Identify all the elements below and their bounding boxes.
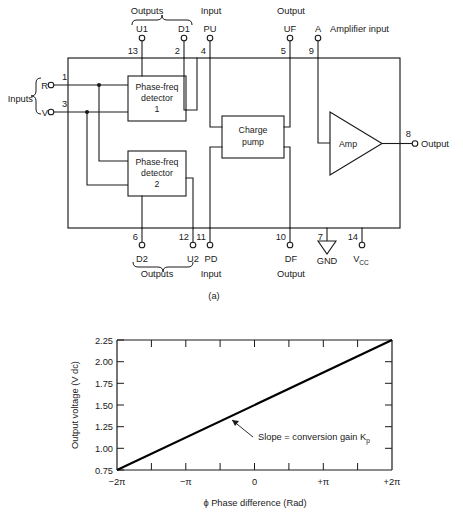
charge-pump-line1: Charge bbox=[239, 125, 268, 135]
ytick-label-0: 0.75 bbox=[95, 466, 113, 476]
text-layer: Outputs U1 D1 PU UF A Input Output Ampli… bbox=[8, 6, 450, 508]
pin-role-pu: Input bbox=[201, 6, 222, 16]
terminal-d2[interactable] bbox=[139, 242, 145, 248]
pin-number-1: 1 bbox=[62, 72, 67, 82]
pin-name-a: A bbox=[315, 24, 322, 34]
chart-x-ticks bbox=[151, 463, 357, 470]
chart-annotation-leader bbox=[232, 420, 253, 437]
chart-x-ticks-top bbox=[151, 340, 357, 347]
pin-name-pu: PU bbox=[204, 24, 217, 34]
chart-slope-annotation: Slope = conversion gain Kp bbox=[258, 432, 370, 445]
pfd1-line2: detector bbox=[141, 93, 173, 103]
pfd1-line1: Phase-freq bbox=[135, 82, 178, 92]
pin-name-u1: U1 bbox=[136, 24, 148, 34]
top-outputs-label: Outputs bbox=[131, 6, 164, 16]
bottom-outputs-label: Outputs bbox=[141, 269, 174, 279]
pin-number-2: 2 bbox=[175, 46, 180, 56]
terminal-u1[interactable] bbox=[139, 35, 145, 41]
terminal-vcc[interactable] bbox=[359, 242, 365, 248]
pin-name-u2: U2 bbox=[187, 254, 199, 264]
ground-symbol-icon bbox=[318, 241, 336, 254]
pin-number-13: 13 bbox=[128, 46, 138, 56]
pin-name-df: DF bbox=[285, 254, 298, 264]
ytick-label-1: 1.00 bbox=[95, 444, 113, 454]
chart-data-line bbox=[117, 340, 392, 470]
pin-name-d1: D1 bbox=[178, 24, 190, 34]
pin-number-9: 9 bbox=[309, 46, 314, 56]
pin-number-10: 10 bbox=[276, 232, 286, 242]
ytick-label-2: 1.25 bbox=[95, 422, 113, 432]
input-name-r: R bbox=[41, 81, 48, 91]
pin-role-pd: Input bbox=[201, 269, 222, 279]
amp-label: Amp bbox=[339, 139, 357, 149]
pin-name-pd: PD bbox=[205, 254, 218, 264]
xtick-label-8: +2π bbox=[383, 477, 400, 487]
ytick-label-4: 1.75 bbox=[95, 379, 113, 389]
chart-y-axis-title: Output voltage (V dc) bbox=[70, 361, 80, 449]
chart-panel bbox=[117, 340, 392, 470]
pfd2-line2: detector bbox=[141, 168, 173, 178]
amplifier-input-label: Amplifier input bbox=[330, 24, 389, 34]
charge-pump-line2: pump bbox=[242, 137, 264, 147]
xtick-label-6: +π bbox=[317, 477, 329, 487]
pin-name-d2: D2 bbox=[136, 254, 148, 264]
terminal-d1[interactable] bbox=[181, 35, 187, 41]
pin-number-8: 8 bbox=[406, 129, 411, 139]
output-label: Output bbox=[421, 139, 449, 149]
terminal-r[interactable] bbox=[48, 82, 54, 88]
terminal-pu[interactable] bbox=[207, 35, 213, 41]
pin-number-4: 4 bbox=[201, 46, 206, 56]
pin-name-gnd: GND bbox=[317, 256, 338, 266]
ytick-label-3: 1.50 bbox=[95, 401, 113, 411]
terminal-pd[interactable] bbox=[207, 242, 213, 248]
ytick-label-5: 2.00 bbox=[95, 357, 113, 367]
pfd2-line1: Phase-freq bbox=[135, 157, 178, 167]
xtick-label-4: 0 bbox=[252, 477, 257, 487]
pin-name-uf: UF bbox=[284, 24, 297, 34]
xtick-label-2: −π bbox=[180, 477, 192, 487]
block-diagram-panel bbox=[31, 15, 418, 272]
terminal-v[interactable] bbox=[48, 109, 54, 115]
ytick-label-6: 2.25 bbox=[95, 336, 113, 346]
inputs-group-label: Inputs bbox=[8, 94, 34, 104]
pin-role-uf: Output bbox=[277, 6, 305, 16]
pin-number-5: 5 bbox=[281, 46, 286, 56]
terminal-u2[interactable] bbox=[190, 242, 196, 248]
pin-name-vcc: VCC bbox=[353, 254, 369, 266]
pin-number-11: 11 bbox=[196, 232, 206, 242]
input-name-v: V bbox=[42, 108, 49, 118]
input-wiring bbox=[31, 78, 128, 185]
chart-y-ticks bbox=[117, 340, 124, 470]
xtick-label-0: −2π bbox=[108, 477, 125, 487]
bottom-terminals bbox=[139, 228, 365, 254]
pin-number-3: 3 bbox=[62, 99, 67, 109]
figure-root: Outputs U1 D1 PU UF A Input Output Ampli… bbox=[0, 0, 463, 520]
pfd1-line3: 1 bbox=[155, 104, 160, 114]
top-terminals bbox=[139, 35, 321, 58]
terminal-a[interactable] bbox=[315, 35, 321, 41]
panel-a-label: (a) bbox=[208, 291, 219, 301]
figure-canvas: Outputs U1 D1 PU UF A Input Output Ampli… bbox=[0, 0, 463, 520]
pfd2-line3: 2 bbox=[155, 179, 160, 189]
pin-role-df: Output bbox=[277, 269, 305, 279]
pin-number-6: 6 bbox=[133, 232, 138, 242]
pin-number-7: 7 bbox=[318, 232, 323, 242]
pin-number-14: 14 bbox=[348, 232, 358, 242]
terminal-output[interactable] bbox=[412, 141, 418, 147]
chart-x-axis-title: ϕ Phase difference (Rad) bbox=[203, 498, 306, 508]
pin-number-12: 12 bbox=[179, 232, 189, 242]
chart-y-ticks-right bbox=[385, 362, 392, 449]
terminal-uf[interactable] bbox=[287, 35, 293, 41]
terminal-df[interactable] bbox=[287, 242, 293, 248]
